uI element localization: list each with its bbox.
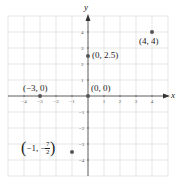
point-label-4-4: (4, 4) bbox=[139, 37, 159, 46]
point-label-neg3-0: (−3, 0) bbox=[23, 84, 48, 93]
x-tick-label: −2 bbox=[53, 99, 58, 104]
point-0-0 bbox=[86, 94, 90, 98]
point-0-2.5 bbox=[86, 54, 90, 58]
y-tick-label: 2 bbox=[81, 62, 84, 67]
x-tick-label: 2 bbox=[119, 99, 122, 104]
y-tick-label: 3 bbox=[81, 46, 84, 51]
label-prefix: −1, − bbox=[26, 143, 45, 153]
point-label-0-0: (0, 0) bbox=[91, 84, 111, 93]
x-tick-label: 3 bbox=[135, 99, 138, 104]
point-4-4 bbox=[150, 30, 154, 34]
y-tick-label: −3 bbox=[79, 142, 84, 147]
point-label-0-2.5: (0, 2.5) bbox=[92, 51, 118, 60]
x-axis-arrow-icon bbox=[163, 94, 170, 99]
y-tick-label: −4 bbox=[79, 158, 84, 163]
x-tick-label: −1 bbox=[69, 99, 74, 104]
y-tick-label: −1 bbox=[79, 110, 84, 115]
x-tick-label: −4 bbox=[21, 99, 26, 104]
x-tick-label: 1 bbox=[103, 99, 106, 104]
fraction-denominator: 2 bbox=[46, 149, 50, 156]
point-label-neg1-neg7-2: (−1, −72) bbox=[21, 140, 55, 156]
x-axis-label: x bbox=[171, 91, 175, 100]
y-axis-label: y bbox=[84, 3, 88, 12]
y-axis-arrow-icon bbox=[86, 14, 91, 21]
point-neg3-0 bbox=[38, 94, 42, 98]
close-paren: ) bbox=[50, 139, 55, 156]
y-tick-label: 4 bbox=[81, 30, 84, 35]
x-tick-label: 4 bbox=[151, 99, 154, 104]
x-tick-label: −3 bbox=[37, 99, 42, 104]
y-tick-label: −2 bbox=[79, 126, 84, 131]
y-tick-label: 1 bbox=[81, 78, 84, 83]
point-neg1-neg3.5 bbox=[70, 150, 74, 154]
